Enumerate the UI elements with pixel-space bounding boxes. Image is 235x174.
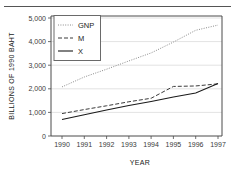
y-tick-label: 4,000	[28, 38, 46, 45]
legend: GNP M X	[54, 16, 101, 61]
y-tick-label: 0	[42, 133, 46, 140]
x-tick-label: 1997	[210, 141, 226, 148]
y-tick-label: 2,000	[28, 85, 46, 92]
x-tick-label: 1993	[121, 141, 137, 148]
series-line-m	[62, 84, 218, 114]
x-tick-label: 1990	[54, 141, 70, 148]
y-tick-label: 3,000	[28, 62, 46, 69]
legend-label-x: X	[78, 47, 83, 56]
chart-canvas: 5,000 4,000 3,000 2,000 1,000 0	[0, 0, 235, 174]
y-tick-label: 1,000	[28, 109, 46, 116]
y-tick-label: 5,000	[28, 15, 46, 22]
x-tick-label: 1995	[166, 141, 182, 148]
y-axis-title: BILLIONS OF 1990 BAHT	[8, 32, 15, 120]
y-tick-labels: 5,000 4,000 3,000 2,000 1,000 0	[28, 15, 46, 140]
x-tick-label: 1991	[77, 141, 93, 148]
x-tick-label: 1994	[143, 141, 159, 148]
x-tick-label: 1996	[188, 141, 204, 148]
x-tick-labels: 1990 1991 1992 1993 1994 1995 1996 1997	[54, 141, 226, 148]
legend-label-m: M	[78, 34, 84, 43]
x-axis-title: YEAR	[130, 159, 150, 166]
legend-label-gnp: GNP	[78, 21, 94, 30]
x-tick-label: 1992	[99, 141, 115, 148]
chart-figure: 5,000 4,000 3,000 2,000 1,000 0	[0, 0, 235, 174]
